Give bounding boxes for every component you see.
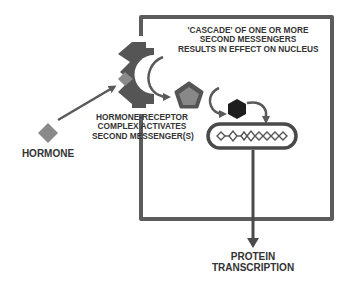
receptor-complex-label: HORMONE-RECEPTOR COMPLEX ACTIVATES SECON… [92, 113, 192, 141]
second-messenger-pentagon-icon [176, 83, 202, 107]
output-label-line-2: TRANSCRIPTION [203, 262, 303, 273]
cascade-label-line-3: RESULTS IN EFFECT ON NUCLEUS [178, 45, 318, 54]
second-messenger-hexagon-icon [228, 99, 246, 119]
arrow-pentagon-to-hexagon [210, 88, 224, 114]
hormone-label-text: HORMONE [16, 148, 80, 159]
hormone-label: HORMONE [16, 148, 80, 159]
protein-transcription-label: PROTEIN TRANSCRIPTION [203, 251, 303, 273]
arrow-hexagon-to-nucleus [247, 102, 266, 121]
cascade-label: 'CASCADE' OF ONE OR MORE SECOND MESSENGE… [178, 26, 318, 54]
hormone-diamond-icon [38, 123, 58, 143]
output-label-line-1: PROTEIN [203, 251, 303, 262]
receptor-label-line-3: SECOND MESSENGER(S) [92, 132, 192, 141]
nucleus [208, 124, 296, 148]
